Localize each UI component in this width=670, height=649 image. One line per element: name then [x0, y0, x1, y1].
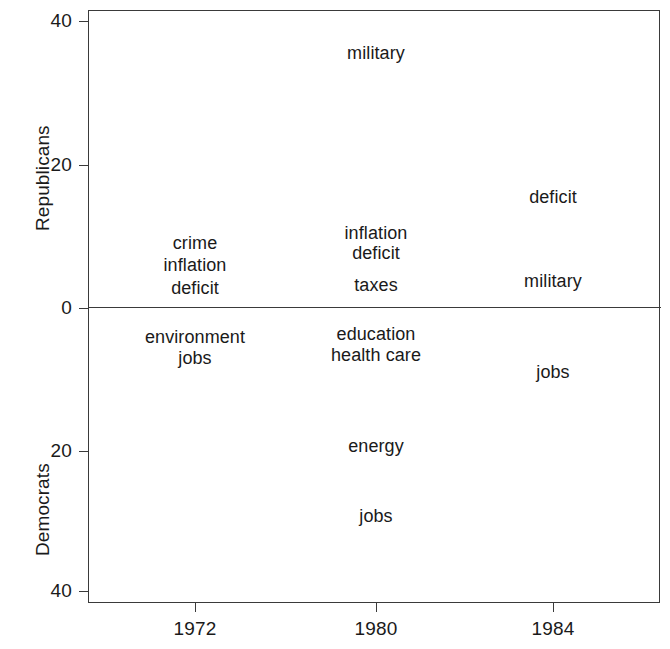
- point-label-crime: crime: [173, 233, 218, 254]
- y-tick-mark: [79, 165, 88, 166]
- point-label-jobs: jobs: [178, 348, 211, 369]
- point-label-military: military: [347, 43, 405, 64]
- point-label-jobs: jobs: [536, 362, 569, 383]
- point-label-education: education: [337, 324, 416, 345]
- point-label-health-care: health care: [331, 345, 421, 366]
- y-tick-mark: [79, 591, 88, 592]
- x-tick-mark: [376, 603, 377, 612]
- y-tick-label: 0: [0, 298, 72, 317]
- point-label-jobs: jobs: [359, 506, 392, 527]
- axis-title-democrats: Democrats: [33, 463, 52, 556]
- y-tick-mark: [79, 451, 88, 452]
- point-label-deficit: deficit: [529, 187, 577, 208]
- point-label-inflation: inflation: [164, 255, 227, 276]
- point-label-inflation: inflation: [345, 223, 408, 244]
- y-tick-mark: [79, 308, 88, 309]
- point-label-taxes: taxes: [354, 275, 398, 296]
- point-label-environment: environment: [145, 327, 245, 348]
- y-tick-label: 40: [0, 581, 72, 600]
- y-tick-label: 20: [0, 441, 72, 460]
- point-label-energy: energy: [348, 436, 404, 457]
- zero-baseline: [88, 307, 661, 308]
- y-tick-mark: [79, 21, 88, 22]
- x-tick-label: 1980: [326, 618, 426, 640]
- point-label-deficit: deficit: [171, 278, 219, 299]
- x-tick-label: 1972: [145, 618, 245, 640]
- point-label-military: military: [524, 271, 582, 292]
- x-tick-mark: [553, 603, 554, 612]
- chart-canvas: 402002040 197219801984 RepublicansDemocr…: [0, 0, 670, 649]
- point-label-deficit: deficit: [352, 243, 400, 264]
- x-tick-label: 1984: [503, 618, 603, 640]
- x-tick-mark: [195, 603, 196, 612]
- axis-title-republicans: Republicans: [33, 125, 52, 231]
- y-tick-label: 40: [0, 11, 72, 30]
